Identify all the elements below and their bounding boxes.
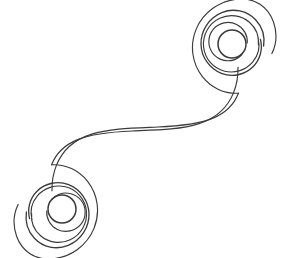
- spiral-figure-svg: [0, 0, 290, 258]
- s-curve-upper-edge: [52, 93, 238, 191]
- upper-volute-ring-2: [201, 10, 264, 75]
- figure-canvas: Double Spiral S-Curve Line Drawing Monoc…: [0, 0, 290, 258]
- lower-volute-ring-2: [26, 183, 89, 248]
- upper-volute-core-ring: [218, 30, 246, 58]
- s-curve-lower-edge: [52, 67, 238, 165]
- upper-volute-core-tail: [209, 22, 247, 60]
- upper-volute-ring-3: [203, 16, 258, 72]
- lower-volute-core-tail: [47, 193, 85, 231]
